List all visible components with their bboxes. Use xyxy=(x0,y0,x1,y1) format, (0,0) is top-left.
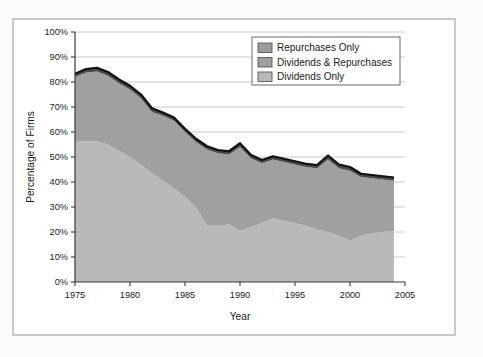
svg-text:1985: 1985 xyxy=(175,290,195,300)
svg-text:80%: 80% xyxy=(50,77,68,87)
svg-text:1995: 1995 xyxy=(285,290,305,300)
svg-text:2005: 2005 xyxy=(395,290,415,300)
stacked-area-chart: 0%10%20%30%40%50%60%70%80%90%100% 197519… xyxy=(12,18,456,336)
x-axis-ticks: 1975198019851990199520002005 xyxy=(65,282,415,300)
legend-label: Repurchases Only xyxy=(277,42,359,53)
svg-text:1980: 1980 xyxy=(120,290,140,300)
chart-page: 0%10%20%30%40%50%60%70%80%90%100% 197519… xyxy=(0,0,483,357)
svg-text:50%: 50% xyxy=(50,152,68,162)
svg-text:40%: 40% xyxy=(50,177,68,187)
svg-text:10%: 10% xyxy=(50,252,68,262)
svg-text:100%: 100% xyxy=(45,27,69,37)
svg-text:70%: 70% xyxy=(50,102,68,112)
svg-text:1990: 1990 xyxy=(230,290,250,300)
y-axis-title: Percentage of Firms xyxy=(25,111,36,203)
svg-text:60%: 60% xyxy=(50,127,68,137)
legend-swatch xyxy=(258,72,272,82)
y-axis-ticks: 0%10%20%30%40%50%60%70%80%90%100% xyxy=(45,27,76,287)
svg-text:1975: 1975 xyxy=(65,290,85,300)
legend-swatch xyxy=(258,58,272,68)
svg-text:30%: 30% xyxy=(50,202,68,212)
legend-label: Dividends & Repurchases xyxy=(277,57,392,68)
x-axis-title: Year xyxy=(230,311,251,322)
legend-swatch xyxy=(258,43,272,53)
svg-text:2000: 2000 xyxy=(340,290,360,300)
svg-text:90%: 90% xyxy=(50,52,68,62)
legend-label: Dividends Only xyxy=(277,71,344,82)
chart-legend: Repurchases OnlyDividends & RepurchasesD… xyxy=(252,37,400,85)
svg-text:20%: 20% xyxy=(50,227,68,237)
svg-text:0%: 0% xyxy=(55,277,68,287)
